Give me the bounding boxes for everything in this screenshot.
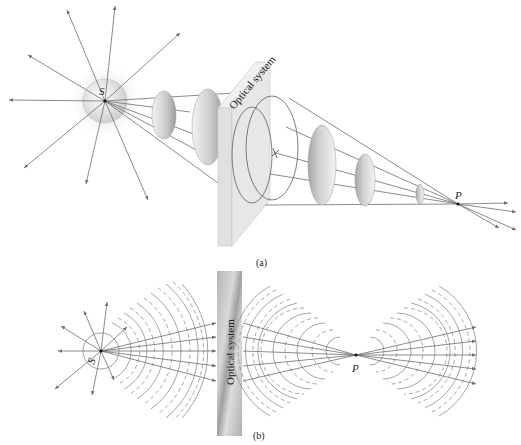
panel-label-a: (a) bbox=[256, 257, 267, 269]
optical-system-box: Optical system bbox=[218, 53, 298, 246]
wavefront-cap-4 bbox=[355, 154, 375, 206]
panel-label-b: (b) bbox=[253, 430, 265, 442]
wavefront-cap-1 bbox=[152, 91, 176, 139]
rays-to-system-b bbox=[101, 323, 216, 381]
rays-to-focus-b bbox=[243, 323, 356, 381]
panel-a: Optical system S P (a) bbox=[9, 6, 516, 269]
wavefront-cap-3 bbox=[308, 125, 336, 205]
wavefront-cap-5 bbox=[416, 184, 424, 204]
focus-point-b bbox=[354, 353, 357, 356]
source-label-b: S bbox=[85, 356, 98, 366]
wavefronts-diverging bbox=[370, 286, 477, 416]
optics-diagram: Optical system S P (a) bbox=[0, 0, 521, 445]
source-point-a bbox=[103, 99, 106, 102]
focus-point-a bbox=[456, 202, 459, 205]
optical-system-label-b: Optical system bbox=[224, 319, 236, 385]
diverging-rays-a bbox=[458, 203, 516, 230]
panel-b: Optical system bbox=[55, 271, 477, 442]
radial-rays-b bbox=[55, 302, 127, 395]
source-label-a: S bbox=[99, 85, 105, 97]
point-label-b: P bbox=[351, 362, 359, 374]
point-label-a: P bbox=[454, 189, 462, 201]
center-mark-icon bbox=[272, 148, 279, 158]
source-point-b bbox=[99, 349, 102, 352]
